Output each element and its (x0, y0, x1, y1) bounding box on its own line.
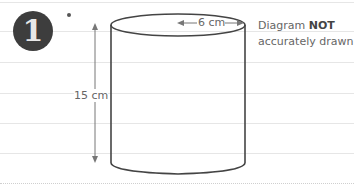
note-prefix: Diagram (258, 19, 305, 32)
height-label: 15 cm (74, 89, 108, 102)
note-suffix: accurately drawn (258, 35, 353, 48)
radius-label: 6 cm (198, 16, 225, 29)
note-emphasis: NOT (309, 19, 335, 32)
diagram-note: Diagram NOT accurately drawn (258, 18, 353, 50)
